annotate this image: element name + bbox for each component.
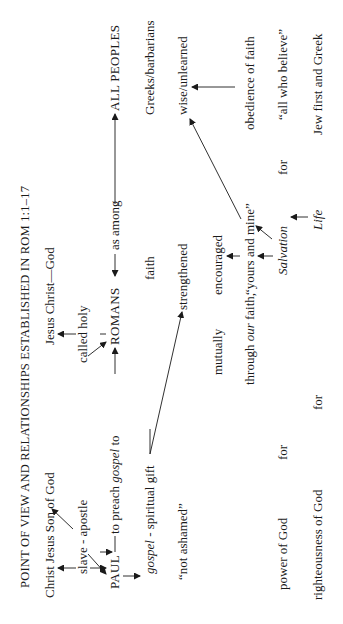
arrow-apostle-to-paul xyxy=(88,554,106,574)
arrow-called-holy-to-romans xyxy=(88,342,106,356)
line-spiritual-gift xyxy=(150,312,182,454)
relationship-arrows xyxy=(0,0,343,624)
arrow-yours-to-wise xyxy=(190,119,241,219)
rom-1-diagram: POINT OF VIEW AND RELATIONSHIPS ESTABLIS… xyxy=(0,0,343,624)
arrow-salvation-diagonal xyxy=(256,226,272,239)
arrow-apostle-to-son-of-god xyxy=(52,509,73,529)
